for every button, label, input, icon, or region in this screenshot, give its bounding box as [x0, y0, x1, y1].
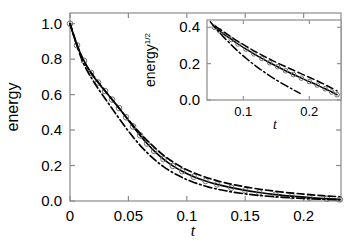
y-tick-label: 0.6	[41, 86, 62, 103]
chart-svg: 00.050.10.150.20.00.20.40.60.81.0energyt…	[0, 0, 361, 246]
x-tick-label: 0.2	[293, 207, 314, 224]
inset-y-tick-label: 0.4	[179, 18, 200, 35]
y-tick-label: 0.8	[41, 50, 62, 67]
y-axis-title: energy	[4, 83, 21, 132]
y-tick-label: 1.0	[41, 15, 62, 32]
y-tick-label: 0.4	[41, 121, 62, 138]
x-tick-label: 0.15	[231, 207, 260, 224]
inset-x-tick-label: 0.1	[234, 104, 252, 119]
inset-y-axis-title: energy1/2	[142, 32, 158, 86]
y-tick-label: 0.2	[41, 157, 62, 174]
y-tick-label: 0.0	[41, 192, 62, 209]
inset-x-tick-label: 0.2	[300, 104, 318, 119]
figure-canvas: 00.050.10.150.20.00.20.40.60.81.0energyt…	[0, 0, 361, 246]
inset-y-tick-label: 0.0	[179, 91, 200, 108]
inset-y-tick-label: 0.2	[179, 55, 200, 72]
x-tick-label: 0	[66, 207, 74, 224]
x-tick-label: 0.05	[114, 207, 143, 224]
inset-y-axis-title-superscript: 1/2	[143, 32, 152, 44]
inset-plot-frame	[207, 20, 341, 100]
x-axis-title: t	[191, 222, 196, 239]
inset-x-axis-title: t	[273, 117, 278, 132]
